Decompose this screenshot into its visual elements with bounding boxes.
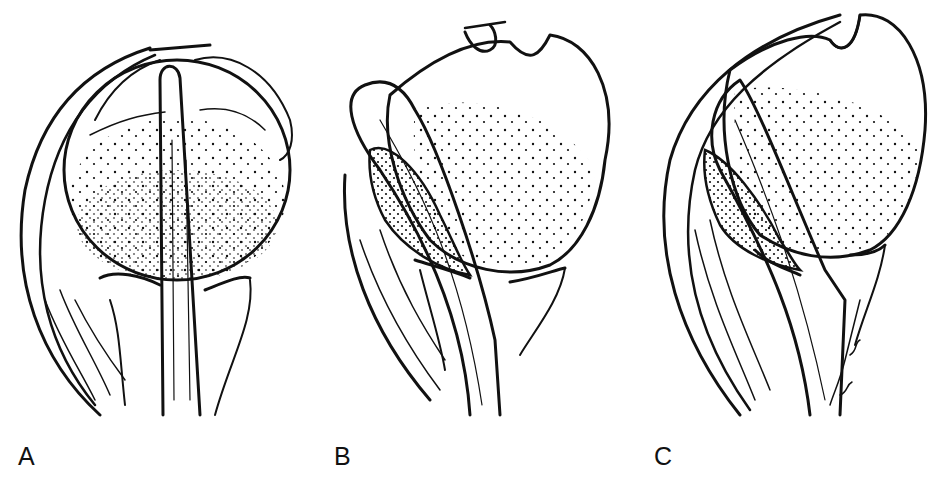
panel-label-c: C: [654, 444, 672, 469]
panel-label-a: A: [18, 444, 35, 469]
panel-c: C: [640, 0, 945, 482]
humeral-head-drawing-b: [320, 0, 620, 440]
panel-a: A: [0, 0, 310, 482]
panel-label-b: B: [334, 444, 351, 469]
humeral-head-drawing-c: [640, 0, 945, 440]
humeral-head-drawing-a: [0, 0, 310, 440]
panel-b: B: [320, 0, 620, 482]
